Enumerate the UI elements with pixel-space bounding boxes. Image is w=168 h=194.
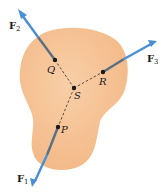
label-f2: F2	[9, 20, 21, 33]
rigid-body-force-diagram: Q R S P F2 F3 F1	[0, 0, 168, 194]
point-r	[101, 70, 105, 74]
point-p	[56, 125, 60, 129]
label-f3-main: F	[147, 53, 154, 64]
label-f1-sub: 1	[24, 178, 28, 186]
label-f3: F3	[147, 53, 159, 66]
label-q: Q	[47, 64, 55, 75]
label-r: R	[98, 76, 107, 87]
label-f2-main: F	[9, 20, 16, 31]
label-f1: F1	[17, 173, 29, 186]
label-f2-sub: 2	[16, 25, 20, 33]
label-f3-sub: 3	[154, 58, 158, 66]
arrowhead-icon	[18, 9, 27, 19]
point-q	[53, 58, 57, 62]
label-s: S	[74, 90, 81, 101]
label-f1-main: F	[17, 173, 24, 184]
label-p: P	[60, 124, 68, 135]
